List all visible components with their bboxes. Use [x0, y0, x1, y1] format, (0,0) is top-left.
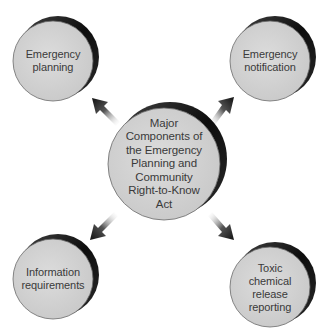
- label-line: Information: [26, 266, 80, 279]
- label-information-requirements: Information requirements: [11, 259, 95, 299]
- label-line: Emergency: [243, 48, 298, 61]
- label-line: requirements: [22, 279, 85, 292]
- label-emergency-notification: Emergency notification: [230, 41, 310, 81]
- label-line: Emergency: [26, 48, 81, 61]
- label-toxic-chemical-release-reporting: Toxic chemical release reporting: [230, 260, 310, 316]
- label-line: Planning and: [131, 157, 197, 170]
- label-emergency-planning: Emergency planning: [13, 41, 93, 81]
- label-line: reporting: [249, 301, 292, 314]
- label-line: release: [252, 288, 287, 301]
- arrow-to-bottom-left: [90, 212, 118, 240]
- label-line: planning: [33, 61, 74, 74]
- label-line: notification: [244, 61, 295, 74]
- label-line: chemical: [249, 275, 292, 288]
- label-line: Right-to-Know: [128, 184, 200, 197]
- label-center: Major Components of the Emergency Planni…: [110, 114, 218, 214]
- label-line: Community: [135, 171, 192, 184]
- label-line: the Emergency: [126, 144, 202, 157]
- label-line: Components of: [126, 130, 203, 143]
- label-line: Major: [150, 117, 178, 130]
- arrow-to-bottom-right: [208, 212, 234, 240]
- label-line: Toxic: [258, 262, 283, 275]
- label-line: Act: [156, 198, 172, 211]
